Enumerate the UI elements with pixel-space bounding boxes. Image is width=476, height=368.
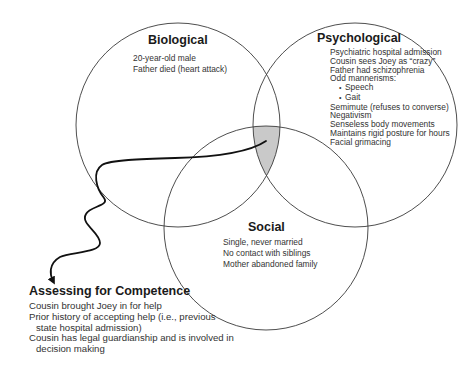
subitem-label: Gait	[345, 92, 360, 102]
biological-title: Biological	[148, 33, 208, 47]
list-item: Prior history of accepting help (i.e., p…	[29, 312, 239, 334]
list-item: Father died (heart attack)	[133, 64, 227, 75]
biological-list: 20-year-old male Father died (heart atta…	[133, 53, 227, 74]
list-item: No contact with siblings	[223, 248, 318, 259]
competence-title: Assessing for Competence	[29, 284, 190, 298]
list-item: 20-year-old male	[133, 53, 227, 64]
social-title: Social	[248, 220, 285, 234]
list-item: Facial grimacing	[330, 138, 450, 147]
list-item: Single, never married	[223, 237, 318, 248]
psychological-title: Psychological	[317, 31, 401, 45]
social-list: Single, never married No contact with si…	[223, 237, 318, 269]
psychological-list: Psychiatric hospital admission Cousin se…	[330, 48, 450, 146]
list-item: Cousin has legal guardianship and is inv…	[29, 333, 239, 355]
list-item: Mother abandoned family	[223, 259, 318, 270]
competence-list: Cousin brought Joey in for help Prior hi…	[29, 301, 239, 355]
subitem-label: Speech	[345, 82, 373, 92]
